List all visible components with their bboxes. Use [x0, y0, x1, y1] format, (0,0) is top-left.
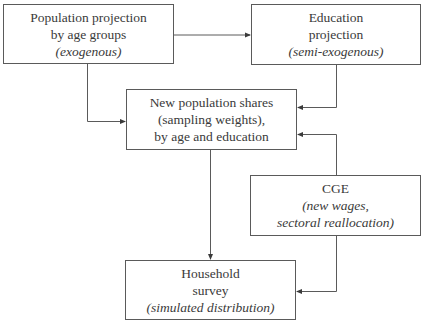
household-line1: Household	[181, 265, 240, 282]
education-line2: projection	[309, 26, 364, 43]
education-line1: Education	[309, 9, 364, 26]
population-line1: Population projection	[30, 9, 147, 26]
education-note: (semi-exogenous)	[288, 43, 383, 60]
cge-note2: sectoral reallocation)	[277, 214, 394, 231]
household-line2: survey	[193, 282, 229, 299]
population-line2: by age groups	[51, 26, 127, 43]
population-projection-box: Population projection by age groups (exo…	[3, 4, 174, 64]
shares-line2: (sampling weights),	[158, 111, 265, 128]
education-projection-box: Education projection (semi-exogenous)	[251, 4, 421, 65]
household-survey-box: Household survey (simulated distribution…	[125, 260, 296, 320]
shares-line3: by age and education	[154, 128, 268, 145]
population-note: (exogenous)	[56, 43, 122, 60]
arrow-cge-to-shares	[298, 135, 337, 176]
cge-note1: (new wages,	[302, 197, 369, 214]
arrow-education-to-shares	[298, 65, 337, 108]
shares-line1: New population shares	[150, 94, 274, 111]
arrow-population-to-shares	[88, 64, 126, 122]
cge-box: CGE (new wages, sectoral reallocation)	[250, 175, 421, 236]
population-shares-box: New population shares (sampling weights)…	[126, 89, 297, 150]
arrow-cge-to-household	[297, 236, 337, 292]
household-note: (simulated distribution)	[147, 299, 275, 316]
cge-line1: CGE	[322, 180, 349, 197]
